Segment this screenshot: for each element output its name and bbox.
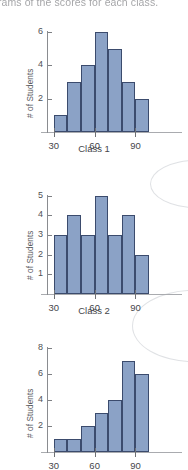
x-axis-line: [41, 132, 182, 133]
y-tick-mark: [48, 348, 52, 349]
histogram-figure-page: ograms of the scores for each class. 246…: [0, 0, 188, 470]
y-tick-mark: [48, 215, 52, 216]
x-tick-mark: [95, 448, 96, 457]
histogram-bar: [95, 32, 109, 132]
histogram-bar: [135, 255, 149, 294]
y-axis-label: # of Students: [26, 230, 35, 280]
y-tick-mark: [48, 65, 52, 66]
y-tick-label: 4: [31, 210, 43, 219]
histogram-bar: [122, 361, 136, 452]
y-tick-mark: [48, 274, 52, 275]
histogram-bar: [108, 49, 122, 132]
histogram-bar: [95, 413, 109, 452]
x-tick-mark: [135, 128, 136, 137]
histogram-bar: [54, 115, 68, 132]
histogram-class-1: 246# of Students306090Class 1: [0, 12, 188, 162]
y-tick-mark: [48, 196, 52, 197]
y-tick-mark: [48, 426, 52, 427]
x-tick-mark: [54, 448, 55, 457]
y-tick-mark: [48, 99, 52, 100]
y-tick-mark: [48, 32, 52, 33]
histogram-bar: [95, 196, 109, 294]
x-tick-label: 90: [124, 461, 146, 470]
x-axis-label: Class 2: [0, 305, 188, 316]
plot-area: 246# of Students306090Class 1: [0, 12, 188, 162]
plot-area: 2468# of Students306090: [0, 330, 188, 470]
y-tick-label: 6: [31, 27, 43, 36]
histogram-bar: [122, 82, 136, 132]
x-tick-label: 30: [43, 461, 65, 470]
y-axis-line: [47, 31, 48, 133]
y-tick-mark: [48, 255, 52, 256]
x-tick-mark: [135, 448, 136, 457]
histogram-bar: [135, 99, 149, 132]
histogram-bar: [67, 82, 81, 132]
x-axis-line: [41, 294, 182, 295]
histogram-bar: [67, 215, 81, 294]
y-tick-mark: [48, 400, 52, 401]
plot-area: 12345# of Students306090Class 2: [0, 178, 188, 324]
histogram-class-2: 12345# of Students306090Class 2: [0, 178, 188, 324]
histogram-bar: [67, 439, 81, 452]
header-text: ograms of the scores for each class.: [0, 0, 158, 8]
histogram-bar: [81, 426, 95, 452]
histogram-bar: [54, 235, 68, 294]
y-axis-label: # of Students: [26, 68, 35, 118]
y-tick-mark: [48, 374, 52, 375]
y-axis-line: [47, 195, 48, 295]
histogram-bar: [135, 374, 149, 452]
y-tick-label: 8: [31, 343, 43, 352]
y-tick-mark: [48, 235, 52, 236]
x-axis-line: [41, 452, 182, 453]
page-header-strip: ograms of the scores for each class.: [0, 0, 188, 11]
y-axis-label: # of Students: [26, 388, 35, 438]
histogram-class-3: 2468# of Students306090: [0, 330, 188, 470]
histogram-bar: [54, 439, 68, 452]
x-tick-mark: [135, 290, 136, 299]
histogram-bar: [122, 215, 136, 294]
histogram-bar: [81, 65, 95, 132]
x-tick-label: 60: [84, 461, 106, 470]
x-axis-label: Class 1: [0, 143, 188, 154]
y-tick-label: 6: [31, 369, 43, 378]
histogram-bar: [108, 400, 122, 452]
x-tick-mark: [95, 290, 96, 299]
histogram-bar: [108, 235, 122, 294]
histogram-bar: [81, 235, 95, 294]
y-tick-label: 5: [31, 191, 43, 200]
x-tick-mark: [54, 290, 55, 299]
x-tick-mark: [95, 128, 96, 137]
x-tick-mark: [54, 128, 55, 137]
